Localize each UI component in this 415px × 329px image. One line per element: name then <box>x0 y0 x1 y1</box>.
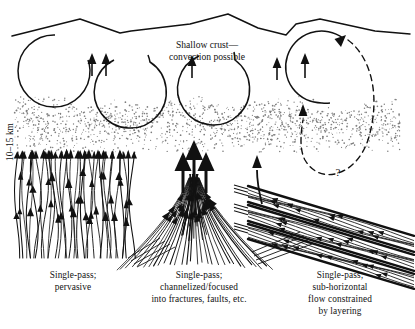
caption-right-line2: sub-horizontal <box>312 282 367 292</box>
caption-left-line1: Single-pass; <box>50 270 97 280</box>
diagram-title-line1: Shallow crust— <box>176 39 238 50</box>
caption-center-line1: Single-pass; <box>176 270 223 280</box>
uncertainty-question-mark: ? <box>336 166 341 178</box>
caption-right-line3: flow constrained <box>308 294 372 304</box>
caption-center-line2: channelized/focused <box>160 282 238 292</box>
diagram-title-line2: convection possible <box>169 51 245 62</box>
caption-center-line3: into fractures, faults, etc. <box>151 294 246 304</box>
caption-right-line1: Single-pass; <box>317 270 364 280</box>
hydrothermal-flow-diagram: ? Shallow crust— convection possible 10–… <box>0 0 415 329</box>
caption-left-line2: pervasive <box>55 282 92 292</box>
caption-right-line4: by layering <box>318 306 361 316</box>
depth-scale-label: 10–15 km <box>5 122 15 160</box>
